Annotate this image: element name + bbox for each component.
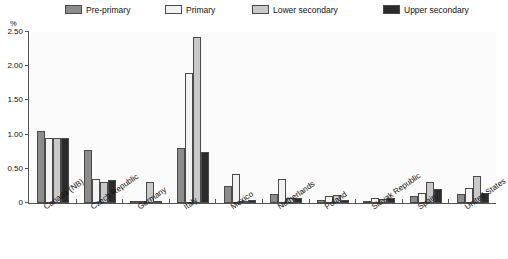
- bar-group: [356, 32, 403, 203]
- bar-group-bars: [224, 32, 256, 203]
- legend-label: Primary: [186, 5, 215, 15]
- bar-group: [170, 32, 217, 203]
- legend-label: Lower secondary: [273, 5, 338, 15]
- bar[interactable]: [45, 138, 53, 203]
- legend-swatch-icon: [165, 5, 182, 14]
- bar-group: [216, 32, 263, 203]
- bar[interactable]: [154, 201, 162, 203]
- legend-swatch-icon: [65, 5, 82, 14]
- bar-group: [310, 32, 357, 203]
- chart-legend: Pre-primaryPrimaryLower secondaryUpper s…: [0, 0, 501, 20]
- bar-group: [263, 32, 310, 203]
- bar-group: [449, 32, 496, 203]
- bar-group-bars: [363, 32, 395, 203]
- bar[interactable]: [201, 152, 209, 203]
- bar-group-bars: [317, 32, 349, 203]
- legend-swatch-icon: [383, 5, 400, 14]
- y-tick-mark: [25, 31, 29, 32]
- y-tick-label: 1.00: [7, 130, 23, 139]
- y-tick-mark: [25, 99, 29, 100]
- y-tick-mark: [25, 65, 29, 66]
- bar-group-bars: [37, 32, 69, 203]
- bar-group: [77, 32, 124, 203]
- bar-groups: [30, 32, 496, 203]
- y-tick-mark: [25, 134, 29, 135]
- legend-swatch-icon: [252, 5, 269, 14]
- y-tick-label: 2.50: [7, 27, 23, 36]
- bar[interactable]: [177, 148, 185, 203]
- bar-group: [30, 32, 77, 203]
- bar[interactable]: [37, 131, 45, 203]
- y-tick-mark: [25, 168, 29, 169]
- bar-group-bars: [270, 32, 302, 203]
- bar[interactable]: [84, 150, 92, 203]
- bar-group-bars: [177, 32, 209, 203]
- legend-label: Pre-primary: [86, 5, 130, 15]
- y-tick-label: 2.00: [7, 61, 23, 70]
- y-tick-label: 0.50: [7, 164, 23, 173]
- chart-plot-area: 00.501.001.502.002.50: [28, 32, 496, 204]
- legend-item-primary[interactable]: Primary: [165, 3, 215, 16]
- bar[interactable]: [224, 186, 232, 203]
- y-tick-label: 0: [19, 198, 23, 207]
- bar[interactable]: [193, 37, 201, 203]
- legend-label: Upper secondary: [404, 5, 469, 15]
- bar[interactable]: [457, 194, 465, 203]
- legend-item-lower-secondary[interactable]: Lower secondary: [252, 3, 338, 16]
- bar[interactable]: [185, 73, 193, 203]
- legend-item-upper-secondary[interactable]: Upper secondary: [383, 3, 469, 16]
- y-tick-label: 1.50: [7, 95, 23, 104]
- legend-item-pre-primary[interactable]: Pre-primary: [65, 3, 130, 16]
- plot-background: 00.501.001.502.002.50: [29, 32, 496, 203]
- y-tick-mark: [25, 202, 29, 203]
- x-axis-labels: Canada (NB)Czech RepublicGermanyItalyMex…: [28, 204, 496, 259]
- bar-group-bars: [457, 32, 489, 203]
- bar-group-bars: [84, 32, 116, 203]
